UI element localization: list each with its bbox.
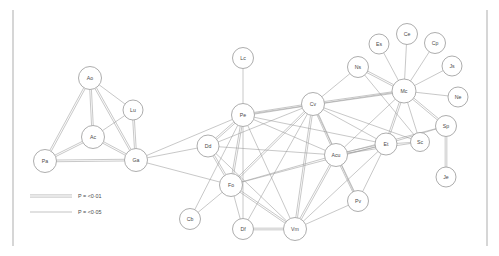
edge bbox=[99, 85, 125, 104]
edge bbox=[411, 52, 430, 81]
edge bbox=[254, 117, 375, 142]
graph-node-lu[interactable]: Lu bbox=[123, 100, 143, 120]
graph-node-pv[interactable]: Pv bbox=[348, 191, 369, 212]
edge bbox=[363, 154, 382, 192]
graph-node-mc[interactable]: Mc bbox=[392, 79, 416, 103]
edge bbox=[367, 71, 394, 86]
node-circle[interactable] bbox=[82, 126, 105, 149]
edge bbox=[445, 137, 447, 168]
legend-label: P = <0·05 bbox=[78, 209, 102, 215]
legend: P = <0·01P = <0·05 bbox=[30, 193, 102, 215]
graph-node-acu[interactable]: Acu bbox=[325, 144, 348, 167]
node-circle[interactable] bbox=[180, 209, 201, 230]
legend-weak: P = <0·05 bbox=[30, 209, 102, 215]
edge bbox=[147, 119, 233, 155]
edge bbox=[416, 92, 448, 96]
node-circle[interactable] bbox=[220, 174, 243, 197]
graph-node-ns[interactable]: Ns bbox=[348, 57, 369, 78]
node-circle[interactable] bbox=[369, 34, 389, 54]
edge bbox=[90, 89, 94, 125]
edge bbox=[219, 147, 325, 154]
graph-node-es[interactable]: Es bbox=[369, 34, 389, 54]
node-circle[interactable] bbox=[348, 57, 369, 78]
edge bbox=[103, 142, 127, 156]
edge bbox=[242, 158, 325, 182]
node-circle[interactable] bbox=[197, 135, 219, 157]
edge bbox=[234, 196, 240, 219]
edge bbox=[254, 105, 302, 114]
edge bbox=[133, 120, 136, 149]
node-circle[interactable] bbox=[232, 104, 255, 127]
node-circle[interactable] bbox=[123, 100, 143, 120]
edge bbox=[240, 191, 286, 223]
graph-node-js[interactable]: Js bbox=[442, 56, 462, 76]
edge bbox=[213, 155, 226, 175]
graph-node-cb[interactable]: Cb bbox=[180, 209, 201, 230]
graph-node-cp[interactable]: Cp bbox=[425, 33, 446, 54]
graph-node-et[interactable]: Et bbox=[375, 133, 397, 155]
graph-node-cv[interactable]: Cv bbox=[302, 93, 325, 116]
node-circle[interactable] bbox=[125, 149, 148, 172]
node-circle[interactable] bbox=[233, 219, 254, 240]
node-circle[interactable] bbox=[397, 24, 418, 45]
edge bbox=[405, 44, 407, 79]
edge bbox=[56, 159, 124, 161]
graph-node-ce[interactable]: Ce bbox=[397, 24, 418, 45]
graph-node-ga[interactable]: Ga bbox=[125, 149, 148, 172]
graph-node-sp[interactable]: Sp bbox=[436, 116, 457, 137]
edge bbox=[248, 125, 290, 218]
edge bbox=[198, 192, 222, 212]
node-circle[interactable] bbox=[284, 218, 307, 241]
node-circle[interactable] bbox=[442, 56, 462, 76]
edge bbox=[384, 53, 399, 81]
graph-node-pa[interactable]: Pa bbox=[34, 150, 57, 173]
graph-node-ne[interactable]: Ne bbox=[448, 87, 468, 107]
graph-node-vm[interactable]: Vm bbox=[284, 218, 307, 241]
edge bbox=[147, 163, 220, 182]
edge bbox=[413, 98, 439, 120]
edge bbox=[306, 205, 349, 224]
graph-node-ac[interactable]: Ac bbox=[82, 126, 105, 149]
legend-label: P = <0·01 bbox=[78, 193, 102, 199]
node-circle[interactable] bbox=[34, 150, 57, 173]
edge bbox=[300, 165, 331, 220]
node-circle[interactable] bbox=[436, 116, 457, 137]
node-circle[interactable] bbox=[233, 48, 254, 69]
graph-node-dd[interactable]: Dd bbox=[197, 135, 219, 157]
graph-node-je[interactable]: Je bbox=[436, 167, 456, 187]
node-circle[interactable] bbox=[325, 144, 348, 167]
edge bbox=[322, 74, 350, 97]
graph-node-sc[interactable]: Sc bbox=[411, 133, 430, 152]
edge bbox=[397, 143, 411, 144]
edge bbox=[55, 141, 83, 156]
graph-node-lc[interactable]: Lc bbox=[233, 48, 254, 69]
graph-node-pe[interactable]: Pe bbox=[232, 104, 255, 127]
node-circle[interactable] bbox=[79, 67, 102, 90]
edge bbox=[323, 110, 376, 139]
edge bbox=[254, 228, 284, 230]
node-circle[interactable] bbox=[436, 167, 456, 187]
edge bbox=[50, 88, 86, 152]
legend-strong: P = <0·01 bbox=[30, 193, 102, 199]
edge bbox=[389, 102, 401, 134]
node-circle[interactable] bbox=[375, 133, 397, 155]
node-circle[interactable] bbox=[302, 93, 325, 116]
node-circle[interactable] bbox=[448, 87, 468, 107]
node-circle[interactable] bbox=[392, 79, 416, 103]
edge bbox=[147, 148, 197, 158]
node-circle[interactable] bbox=[425, 33, 446, 54]
node-circle[interactable] bbox=[411, 133, 430, 152]
graph-node-fo[interactable]: Fo bbox=[220, 174, 243, 197]
node-circle[interactable] bbox=[348, 191, 369, 212]
graph-node-df[interactable]: Df bbox=[233, 219, 254, 240]
network-canvas: PaAoAcLuGaLcPeDdFoCbDfVmCvAcuEtPvMcNsEsC… bbox=[0, 0, 499, 256]
edge bbox=[415, 71, 443, 86]
network-figure: PaAoAcLuGaLcPeDdFoCbDfVmCvAcuEtPvMcNsEsC… bbox=[0, 0, 499, 256]
graph-node-ao[interactable]: Ao bbox=[79, 67, 102, 90]
